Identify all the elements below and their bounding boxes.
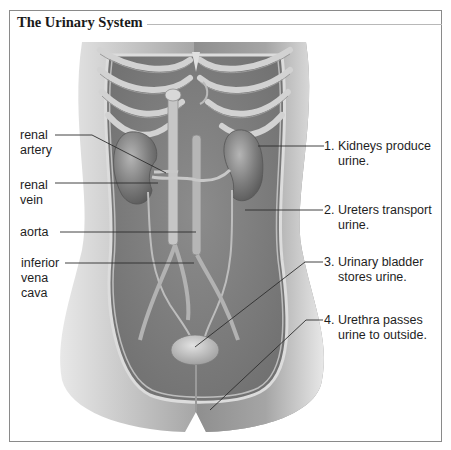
label-ureters: 2. Ureters transport urine.	[324, 203, 432, 233]
title-rule	[130, 24, 442, 25]
label-urinary-bladder: 3. Urinary bladder stores urine.	[324, 255, 423, 285]
inferior-vena-cava	[192, 135, 201, 255]
label-inferior-vena-cava: inferior vena cava	[21, 256, 59, 301]
label-renal-artery: renal artery	[20, 128, 52, 158]
urinary-bladder	[171, 335, 219, 365]
label-aorta: aorta	[20, 225, 49, 240]
label-renal-vein: renal vein	[20, 178, 48, 208]
label-urethra: 4. Urethra passes urine to outside.	[324, 313, 427, 343]
label-kidneys: 1. Kidneys produce urine.	[324, 139, 431, 169]
diagram-title: The Urinary System	[17, 14, 147, 31]
